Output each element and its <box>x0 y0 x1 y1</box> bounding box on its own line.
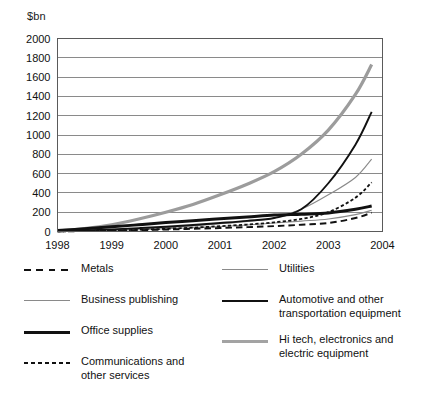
x-axis-tick-labels: 1998199920002001200220032004 <box>45 239 394 251</box>
legend-line-swatch <box>24 269 70 271</box>
legend-item: Automotive and other transportation equi… <box>222 293 422 320</box>
series-line <box>58 65 372 231</box>
x-axis-tick-label: 2001 <box>208 239 232 251</box>
y-axis-tick-label: 1000 <box>26 129 50 141</box>
x-axis-tick-label: 1998 <box>45 239 69 251</box>
chart-legend: MetalsBusiness publishingOffice supplies… <box>0 262 424 406</box>
legend-line-swatch <box>24 331 70 334</box>
legend-item: Business publishing <box>24 293 214 311</box>
data-series-group <box>58 65 372 232</box>
legend-item-label: Utilities <box>279 262 422 276</box>
legend-item-label: Automotive and other transportation equi… <box>279 293 422 320</box>
y-axis-tick-label: 400 <box>32 187 50 199</box>
line-chart-plot: 0200400600800100012001400160018002000 19… <box>0 0 424 262</box>
legend-item-label: Business publishing <box>81 293 214 307</box>
legend-line-swatch <box>222 300 268 302</box>
y-axis-tick-label: 0 <box>44 226 50 238</box>
x-axis-tick-label: 1999 <box>99 239 123 251</box>
legend-item: Hi tech, electronics and electric equipm… <box>222 333 422 360</box>
y-axis-tick-label: 200 <box>32 206 50 218</box>
legend-line-swatch <box>222 340 268 343</box>
legend-column-left: MetalsBusiness publishingOffice supplies… <box>24 262 214 395</box>
legend-item: Communications and other services <box>24 355 214 382</box>
y-axis-tick-label: 600 <box>32 168 50 180</box>
gridlines-group <box>58 58 383 212</box>
y-axis-tick-label: 1200 <box>26 110 50 122</box>
x-axis-tick-label: 2000 <box>154 239 178 251</box>
legend-item-label: Office supplies <box>81 324 214 338</box>
legend-column-right: UtilitiesAutomotive and other transporta… <box>222 262 422 373</box>
x-axis-tick-label: 2003 <box>316 239 340 251</box>
y-axis-tick-label: 1400 <box>26 90 50 102</box>
legend-item: Utilities <box>222 262 422 280</box>
y-axis-tick-label: 800 <box>32 148 50 160</box>
legend-item: Metals <box>24 262 214 280</box>
y-axis-tick-label: 2000 <box>26 33 50 45</box>
y-axis-tick-label: 1600 <box>26 71 50 83</box>
legend-line-swatch <box>222 269 268 270</box>
legend-line-swatch <box>24 300 70 301</box>
legend-line-swatch <box>24 362 70 364</box>
y-axis-tick-label: 1800 <box>26 52 50 64</box>
legend-item: Office supplies <box>24 324 214 342</box>
legend-item-label: Communications and other services <box>81 355 214 382</box>
legend-item-label: Hi tech, electronics and electric equipm… <box>279 333 422 360</box>
legend-item-label: Metals <box>81 262 214 276</box>
chart-figure: $bn 020040060080010001200140016001800200… <box>0 0 424 262</box>
x-axis-tick-label: 2004 <box>370 239 394 251</box>
y-axis-tick-labels: 0200400600800100012001400160018002000 <box>26 33 50 238</box>
x-axis-tick-label: 2002 <box>262 239 286 251</box>
